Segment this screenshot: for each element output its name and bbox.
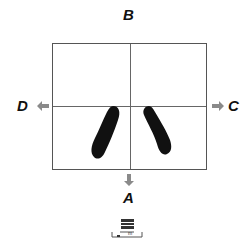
quadrant-box (52, 43, 207, 170)
arrow-left-icon (37, 101, 49, 111)
label-a: A (123, 190, 134, 205)
label-d: D (17, 98, 28, 113)
device-text: m (128, 230, 132, 236)
label-b: B (123, 7, 134, 22)
right-footprint-shape (139, 104, 179, 164)
arrow-down-icon (124, 174, 134, 186)
left-footprint-shape (83, 104, 123, 164)
arrow-right-icon (212, 101, 224, 111)
device-icon: m (110, 219, 144, 241)
label-c: C (228, 98, 239, 113)
horizontal-divider (53, 106, 206, 107)
